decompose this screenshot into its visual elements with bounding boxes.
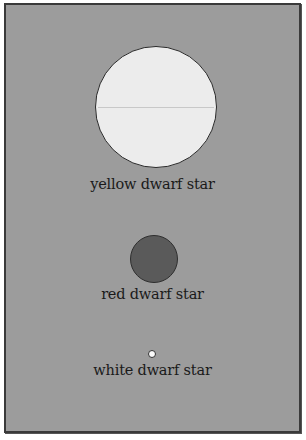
- yellow-dwarf-star-circle: [95, 46, 217, 168]
- white-dwarf-label: white dwarf star: [6, 362, 299, 378]
- red-dwarf-label: red dwarf star: [6, 286, 299, 302]
- red-dwarf-star-circle: [130, 235, 178, 283]
- white-dwarf-star-circle: [148, 350, 156, 358]
- yellow-dwarf-label: yellow dwarf star: [6, 176, 299, 192]
- diagram-panel: yellow dwarf star red dwarf star white d…: [4, 3, 301, 433]
